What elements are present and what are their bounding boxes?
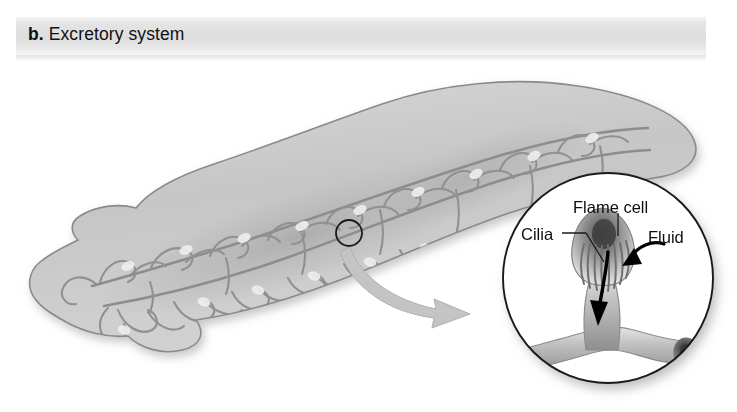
label-fluid: Fluid	[648, 228, 684, 247]
label-cilia: Cilia	[521, 225, 553, 244]
label-flame-cell: Flame cell	[573, 198, 648, 217]
tubule-lumen	[674, 338, 698, 366]
figure-panel-b-excretory-system: b. Excretory system	[0, 0, 737, 412]
